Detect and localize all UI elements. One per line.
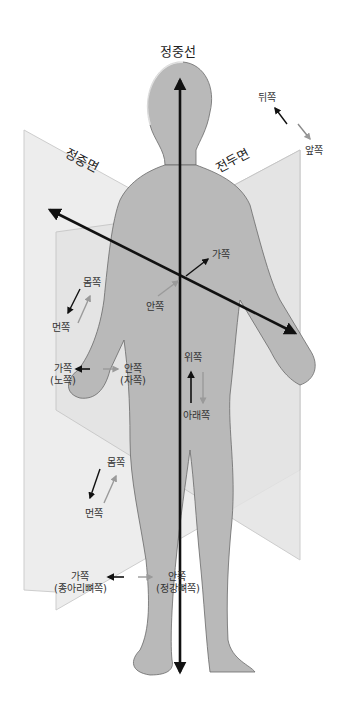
proximal-arm-label: 몸쪽	[83, 277, 101, 289]
medial-leg-label: 안쪽	[156, 571, 198, 583]
medial-forearm-sublabel: (자쪽)	[120, 375, 146, 387]
lateral-forearm-sublabel: (노쪽)	[50, 375, 76, 387]
midline-label: 정중선	[160, 46, 196, 58]
medial-label: 안쪽	[146, 301, 164, 313]
inferior-label: 아래쪽	[183, 410, 210, 422]
medial-forearm-label-group: 안쪽 (자쪽)	[120, 363, 146, 387]
proximal-leg-label: 몸쪽	[107, 457, 125, 469]
posterior-label: 뒤쪽	[258, 92, 276, 104]
distal-leg-label: 먼쪽	[85, 508, 103, 520]
diagram-canvas	[0, 0, 357, 704]
lateral-leg-sublabel: (종아리뼈쪽)	[54, 583, 106, 595]
medial-leg-sublabel: (정강뼈쪽)	[156, 583, 198, 595]
lateral-forearm-label-group: 가쪽 (노쪽)	[50, 363, 76, 387]
lateral-label: 가쪽	[212, 249, 230, 261]
anatomical-planes-diagram: 정중선 정중면 전두면 뒤쪽 앞쪽 가쪽 안쪽 몸쪽 먼쪽 가쪽 (노쪽) 안쪽…	[0, 0, 357, 704]
lateral-forearm-label: 가쪽	[50, 363, 76, 375]
superior-label: 위쪽	[184, 352, 202, 364]
medial-leg-label-group: 안쪽 (정강뼈쪽)	[156, 571, 198, 595]
lateral-leg-label: 가쪽	[54, 571, 106, 583]
lateral-leg-label-group: 가쪽 (종아리뼈쪽)	[54, 571, 106, 595]
medial-forearm-label: 안쪽	[120, 363, 146, 375]
anterior-arrow	[298, 124, 310, 139]
posterior-arrow	[275, 108, 287, 124]
anterior-label: 앞쪽	[305, 145, 323, 157]
distal-arm-label: 먼쪽	[52, 322, 70, 334]
